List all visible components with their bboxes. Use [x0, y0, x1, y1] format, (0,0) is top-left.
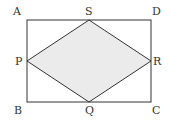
label-p: P [15, 55, 23, 68]
label-q: Q [85, 104, 94, 117]
rhombus-pqrs [27, 20, 151, 102]
geometry-diagram: A S D P R B Q C [0, 0, 171, 121]
label-a: A [12, 5, 22, 18]
label-s: S [85, 5, 93, 18]
label-d: D [152, 5, 161, 18]
label-b: B [14, 104, 22, 117]
label-c: C [152, 104, 160, 117]
label-r: R [153, 55, 162, 68]
